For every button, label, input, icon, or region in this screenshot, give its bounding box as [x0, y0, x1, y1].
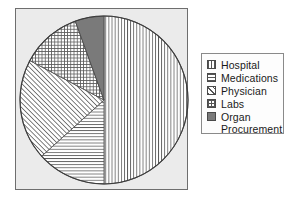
legend-item-organ-procurement[interactable]: Organ [207, 110, 279, 123]
legend-label-organ: Organ [221, 111, 251, 123]
legend-label-procurement-continuation: Procurement [207, 123, 279, 135]
vertical-lines-swatch-icon [207, 60, 216, 69]
pie-slice-hospital[interactable] [104, 16, 188, 184]
legend-item-labs[interactable]: Labs [207, 97, 279, 110]
legend-item-physician[interactable]: Physician [207, 84, 279, 97]
pie-slices-group [20, 16, 188, 184]
legend-label-medications: Medications [221, 72, 278, 84]
legend-label-physician: Physician [221, 85, 267, 97]
horizontal-lines-swatch-icon [207, 73, 216, 82]
solid-gray-swatch-icon [207, 112, 216, 121]
diagonal-lines-swatch-icon [207, 86, 216, 95]
chart-legend: Hospital Medications Physician Labs Orga… [201, 53, 284, 134]
legend-label-labs: Labs [221, 98, 244, 110]
legend-item-hospital[interactable]: Hospital [207, 58, 279, 71]
legend-label-hospital: Hospital [221, 59, 260, 71]
legend-item-medications[interactable]: Medications [207, 71, 279, 84]
cross-hatch-swatch-icon [207, 99, 216, 108]
pie-chart-figure: Hospital Medications Physician Labs Orga… [0, 0, 292, 203]
